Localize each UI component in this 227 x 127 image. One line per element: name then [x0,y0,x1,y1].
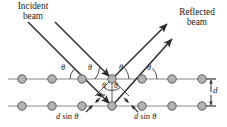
incident-ray-2 [28,22,110,104]
atom [48,75,56,83]
path-diff-right-sin: sin [140,112,150,121]
path-diff-right-theta: θ [152,112,156,121]
atom [138,102,146,110]
angle-arc-top-3 [124,68,129,79]
theta-label-top-2: θ [88,64,92,73]
theta-label-top-4: θ [147,64,151,73]
angle-arc-top-2 [95,67,100,79]
theta-label-inner-right: θ [114,82,118,91]
reflected-beam-label-line2: beam [167,18,227,28]
tick-left-inner [96,98,101,103]
incident-rays [28,22,110,104]
angle-arc-top-1 [70,69,74,79]
atom [48,102,56,110]
atom [78,75,86,83]
angle-arc-top-4 [153,68,157,79]
atom [198,75,206,83]
atom [18,75,26,83]
incident-beam-label-line2: beam [2,12,64,22]
reflected-beam-label: Reflected beam [167,8,227,28]
theta-label-top-1: θ [61,64,65,73]
theta-label-inner-left: θ [102,82,106,91]
path-difference-label-left: d sin θ [56,113,78,122]
atom [198,102,206,110]
atom-scattering-bottom [108,102,116,110]
atom [18,102,26,110]
path-diff-left-sin: sin [62,112,72,121]
incident-beam-label: Incident beam [2,2,64,22]
interplanar-spacing-label: d [213,86,218,95]
atom [168,102,176,110]
path-diff-left-theta: θ [74,112,78,121]
atom [138,75,146,83]
tick-right-inner [124,98,129,103]
path-difference-label-right: d sin θ [134,113,156,122]
bragg-diffraction-figure: Incident beam Reflected beam θ θ θ θ θ θ… [0,0,227,127]
atom [78,102,86,110]
atom [168,75,176,83]
theta-label-top-3: θ [119,64,123,73]
